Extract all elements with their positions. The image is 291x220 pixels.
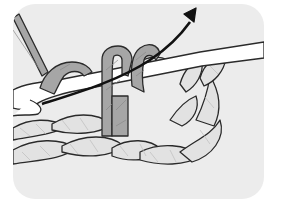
working-yarn-tail bbox=[13, 14, 48, 76]
crochet-illustration bbox=[0, 0, 291, 220]
